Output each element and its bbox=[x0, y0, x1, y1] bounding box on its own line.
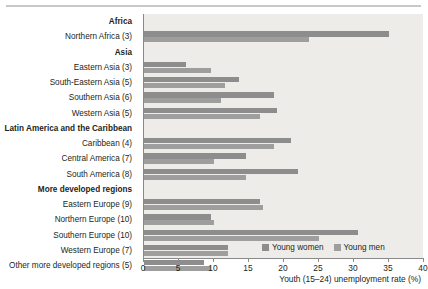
row-label: Asia bbox=[0, 45, 136, 60]
bar-young-women bbox=[144, 214, 211, 219]
x-axis-title: Youth (15–24) unemployment rate (%) bbox=[0, 274, 421, 284]
x-tick-label: 30 bbox=[348, 263, 357, 273]
row-label: Eastern Europe (9) bbox=[0, 197, 136, 212]
bar-young-men bbox=[144, 205, 263, 210]
chart-row-group-header: More developed regions bbox=[0, 182, 423, 197]
row-bars bbox=[144, 197, 424, 212]
x-tick-label: 0 bbox=[141, 263, 146, 273]
x-tick-label: 25 bbox=[313, 263, 322, 273]
legend-swatch-young-women-icon bbox=[262, 244, 269, 251]
bar-young-women bbox=[144, 77, 239, 82]
legend-label-young-women: Young women bbox=[272, 243, 324, 252]
bar-young-women bbox=[144, 108, 277, 113]
row-bars bbox=[144, 90, 424, 105]
bar-young-men bbox=[144, 144, 274, 149]
chart-row-group-header: Latin America and the Caribbean bbox=[0, 121, 423, 136]
x-tick-label: 5 bbox=[176, 263, 181, 273]
bar-young-men bbox=[144, 98, 221, 103]
bar-young-men bbox=[144, 37, 309, 42]
bar-young-women bbox=[144, 92, 274, 97]
x-tick-mark bbox=[423, 258, 424, 262]
x-tick-mark bbox=[143, 258, 144, 262]
bar-young-men bbox=[144, 220, 214, 225]
row-label: More developed regions bbox=[0, 182, 136, 197]
row-label: Other more developed regions (5) bbox=[0, 258, 136, 273]
legend-label-young-men: Young men bbox=[344, 243, 385, 252]
row-bars bbox=[144, 60, 424, 75]
top-divider-rule bbox=[6, 5, 421, 7]
bar-young-women bbox=[144, 230, 358, 235]
row-bars bbox=[144, 75, 424, 90]
row-bars bbox=[144, 167, 424, 182]
row-bars bbox=[144, 106, 424, 121]
row-label: Northern Africa (3) bbox=[0, 29, 136, 44]
x-tick-mark bbox=[213, 258, 214, 262]
bar-young-men bbox=[144, 68, 211, 73]
bar-young-men bbox=[144, 175, 246, 180]
chart-row: Eastern Asia (3) bbox=[0, 60, 423, 75]
chart-row-group-header: Africa bbox=[0, 14, 423, 29]
bar-young-women bbox=[144, 153, 246, 158]
x-tick-label: 10 bbox=[208, 263, 217, 273]
row-label: Central America (7) bbox=[0, 151, 136, 166]
row-label: Western Europe (7) bbox=[0, 243, 136, 258]
bar-young-men bbox=[144, 114, 260, 119]
chart-row: Western Asia (5) bbox=[0, 106, 423, 121]
chart-legend: Young women Young men bbox=[262, 243, 391, 252]
row-label: Latin America and the Caribbean bbox=[0, 121, 136, 136]
row-bars bbox=[144, 45, 424, 60]
chart-row: Northern Africa (3) bbox=[0, 29, 423, 44]
x-tick-mark bbox=[283, 258, 284, 262]
chart-row-group-header: Asia bbox=[0, 45, 423, 60]
legend-item-young-women: Young women bbox=[262, 243, 324, 252]
x-tick-mark bbox=[353, 258, 354, 262]
row-label: South America (8) bbox=[0, 167, 136, 182]
chart-row: Central America (7) bbox=[0, 151, 423, 166]
x-tick-mark bbox=[388, 258, 389, 262]
x-tick-mark bbox=[318, 258, 319, 262]
row-label: Eastern Asia (3) bbox=[0, 60, 136, 75]
bar-young-women bbox=[144, 62, 186, 67]
bar-young-men bbox=[144, 236, 319, 241]
x-tick-mark bbox=[178, 258, 179, 262]
row-bars bbox=[144, 136, 424, 151]
x-tick-label: 20 bbox=[278, 263, 287, 273]
chart-rows: AfricaNorthern Africa (3)AsiaEastern Asi… bbox=[0, 14, 423, 258]
row-label: Caribbean (4) bbox=[0, 136, 136, 151]
bar-young-women bbox=[144, 138, 291, 143]
x-tick-label: 40 bbox=[418, 263, 427, 273]
row-bars bbox=[144, 182, 424, 197]
row-bars bbox=[144, 14, 424, 29]
x-tick-mark bbox=[248, 258, 249, 262]
x-axis-ticks: 0510152025303540 bbox=[143, 258, 424, 274]
bar-young-men bbox=[144, 251, 228, 256]
row-label: Northern Europe (10) bbox=[0, 212, 136, 227]
bar-young-men bbox=[144, 159, 214, 164]
bar-young-women bbox=[144, 199, 260, 204]
bar-young-women bbox=[144, 245, 228, 250]
legend-item-young-men: Young men bbox=[334, 243, 385, 252]
chart-row: South America (8) bbox=[0, 167, 423, 182]
chart-row: Southern Asia (6) bbox=[0, 90, 423, 105]
bar-young-women bbox=[144, 169, 298, 174]
legend-swatch-young-men-icon bbox=[334, 244, 341, 251]
row-label: Africa bbox=[0, 14, 136, 29]
chart-row: Eastern Europe (9) bbox=[0, 197, 423, 212]
row-bars bbox=[144, 212, 424, 227]
row-bars bbox=[144, 151, 424, 166]
bar-young-women bbox=[144, 31, 389, 36]
row-label: Southern Asia (6) bbox=[0, 90, 136, 105]
row-label: South-Eastern Asia (5) bbox=[0, 75, 136, 90]
row-label: Southern Europe (10) bbox=[0, 228, 136, 243]
chart-row: South-Eastern Asia (5) bbox=[0, 75, 423, 90]
chart-row: Caribbean (4) bbox=[0, 136, 423, 151]
row-bars bbox=[144, 29, 424, 44]
x-tick-label: 35 bbox=[383, 263, 392, 273]
row-bars bbox=[144, 228, 424, 243]
row-label: Western Asia (5) bbox=[0, 106, 136, 121]
x-tick-label: 15 bbox=[243, 263, 252, 273]
chart-row: Northern Europe (10) bbox=[0, 212, 423, 227]
bar-young-men bbox=[144, 83, 225, 88]
chart-row: Southern Europe (10) bbox=[0, 228, 423, 243]
